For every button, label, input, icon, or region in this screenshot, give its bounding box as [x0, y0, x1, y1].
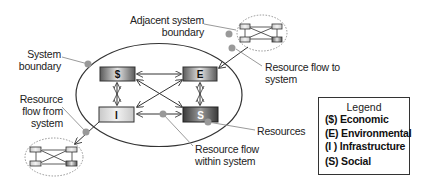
- label-resources: Resources: [257, 125, 317, 137]
- system-boundary-ellipse: [76, 44, 242, 147]
- node-social-label: S: [197, 110, 204, 121]
- node-economic-label: $: [115, 69, 121, 80]
- legend-item-social: (S) Social: [319, 155, 409, 169]
- node-environmental-label: E: [197, 69, 204, 80]
- node-social: S: [183, 107, 218, 122]
- dot-flow-from-system: [83, 129, 90, 136]
- adjacent-system-bottom: [25, 138, 83, 176]
- callout-lines: [62, 24, 262, 146]
- dot-adjacent-boundary: [226, 31, 233, 38]
- legend-item-infrastructure: (I ) Infrastructure: [319, 140, 409, 154]
- label-resource-flow-from-system: Resource flow from system: [0, 93, 63, 129]
- adjacent-system-top: [237, 15, 287, 51]
- dot-resources: [205, 119, 212, 126]
- legend-title: Legend: [319, 101, 409, 113]
- legend-item-environmental: (E) Environmental: [319, 127, 409, 141]
- legend-box: Legend ($) Economic (E) Environmental (I…: [318, 97, 410, 175]
- dot-flow-to-system: [229, 45, 236, 52]
- dot-flow-within-system: [160, 111, 167, 118]
- node-economic: $: [100, 67, 135, 81]
- label-resource-flow-to-system: Resource flow to system: [265, 61, 355, 85]
- label-adjacent-system-boundary: Adjacent system boundary: [118, 14, 204, 38]
- node-infrastructure-label: I: [115, 110, 118, 121]
- label-system-boundary: System boundary: [0, 48, 61, 72]
- dot-system-boundary: [85, 61, 92, 68]
- node-environmental: E: [183, 67, 217, 81]
- label-resource-flow-within-system: Resource flow within system: [195, 143, 275, 167]
- legend-item-economic: ($) Economic: [319, 113, 409, 127]
- node-infrastructure: I: [99, 107, 134, 122]
